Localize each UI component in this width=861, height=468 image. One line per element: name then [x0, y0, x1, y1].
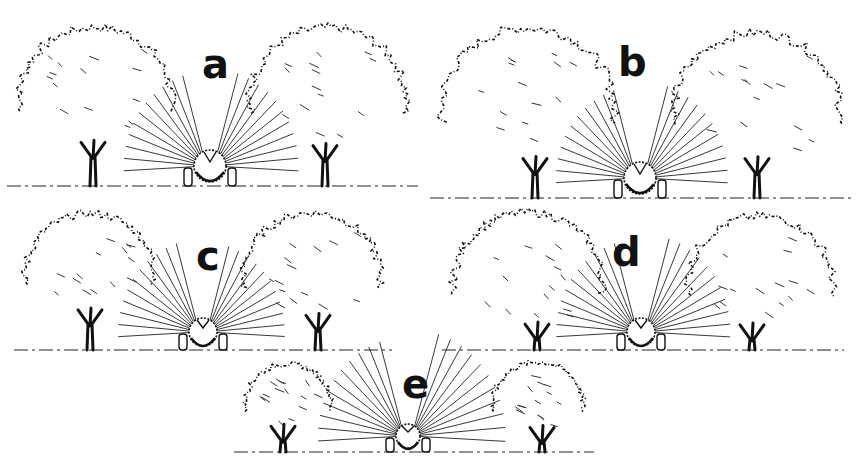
panel-label-e: e	[402, 364, 429, 404]
panel-label-b: b	[618, 42, 647, 82]
panel-d	[442, 208, 844, 350]
panel-c	[14, 211, 392, 351]
panel-label-c: c	[196, 236, 220, 276]
panel-label-a: a	[202, 44, 229, 84]
sprayer-illustration	[0, 0, 861, 468]
panel-label-d: d	[612, 232, 641, 272]
figure: a b c d e	[0, 0, 861, 468]
